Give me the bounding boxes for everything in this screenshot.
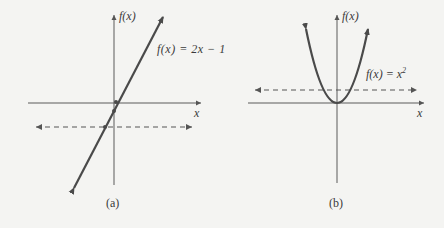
b-function-label-exp: 2 [402, 66, 406, 75]
b-function-label-base: f(x) = x [366, 67, 402, 81]
graphs-canvas [0, 0, 444, 228]
b-caption: (b) [329, 196, 343, 211]
a-y-axis-label-text: f(x) [119, 9, 136, 23]
a-y-axis-label: f(x) [119, 9, 136, 24]
b-function-label: f(x) = x2 [366, 66, 406, 82]
a-caption: (a) [106, 196, 119, 211]
panel-b [248, 15, 424, 183]
panel-a [28, 15, 201, 188]
a-function-label: f(x) = 2x − 1 [157, 42, 226, 57]
b-x-axis-label: x [417, 106, 422, 121]
a-x-axis-label: x [194, 106, 199, 121]
b-y-axis-label: f(x) [342, 9, 359, 24]
